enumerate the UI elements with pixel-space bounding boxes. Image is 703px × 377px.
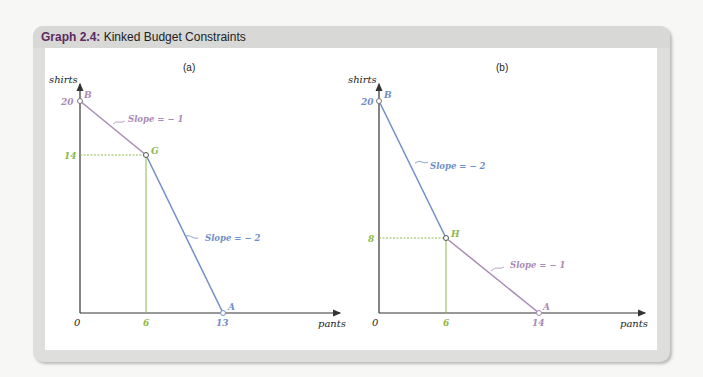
xtick-13: 13 [216,318,229,328]
ytick-8: 8 [368,234,375,244]
slope-pointer [491,267,504,271]
point-a [537,311,542,316]
chart-b: (b) shirts pants 0 20 B 8 H 6 14 A Slope… [348,62,648,329]
xtick-6: 6 [443,318,450,328]
chart-a: (a) shirts pants 0 20 B 14 G 6 13 A Slop… [49,62,346,329]
point-b-label: B [83,90,92,100]
segment-bg [80,101,146,155]
point-a-label: A [227,302,235,312]
chart-a-label: (a) [183,62,195,73]
point-b [78,99,83,104]
point-h [444,236,449,241]
xtick-6: 6 [143,318,150,328]
point-b-label: B [383,90,392,100]
slope-pointer [113,121,125,124]
point-a [221,311,226,316]
slope-pointer [415,161,428,163]
slope-label-1: Slope = − 1 [128,114,183,124]
slope-label-1: Slope = − 2 [430,161,486,171]
y-axis-label: shirts [49,74,78,85]
segment-ha [446,238,539,313]
ytick-20: 20 [60,97,74,107]
origin-label: 0 [74,317,81,328]
origin-label: 0 [372,317,379,328]
ytick-14: 14 [64,151,77,161]
x-axis-label: pants [318,318,346,329]
xtick-14: 14 [532,318,545,328]
slope-label-2: Slope = − 1 [510,260,565,270]
ytick-20: 20 [360,97,374,107]
point-g-label: G [151,146,159,156]
slope-label-2: Slope = − 2 [205,233,261,243]
point-g [144,153,149,158]
chart-b-label: (b) [496,62,508,73]
point-b [377,99,382,104]
point-a-label: A [542,302,550,312]
point-h-label: H [450,229,460,239]
x-axis-label: pants [620,318,648,329]
y-axis-label: shirts [348,74,377,85]
slope-pointer [186,236,198,239]
charts: (a) shirts pants 0 20 B 14 G 6 13 A Slop… [0,0,703,377]
